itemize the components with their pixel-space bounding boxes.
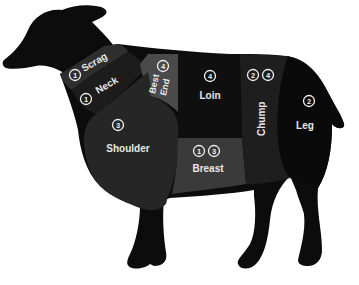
loin-label: Loin bbox=[199, 90, 220, 101]
breast-number-1: 1 bbox=[197, 147, 201, 156]
chump-number-1: 2 bbox=[251, 71, 255, 80]
shoulder-number: 3 bbox=[116, 121, 120, 130]
leg-label: Leg bbox=[296, 120, 314, 131]
breast-label: Breast bbox=[192, 163, 224, 174]
lamb-cuts-diagram: 1 Scrag 1 Neck 4 Best End 4 Loin 2 4 Ch bbox=[0, 0, 359, 285]
shoulder-label: Shoulder bbox=[106, 143, 149, 154]
scrag-number: 1 bbox=[73, 71, 77, 80]
neck-number: 1 bbox=[84, 95, 88, 104]
breast-number-2: 3 bbox=[212, 147, 216, 156]
leg-number: 2 bbox=[307, 97, 311, 106]
chump-label: Chump bbox=[256, 102, 267, 136]
